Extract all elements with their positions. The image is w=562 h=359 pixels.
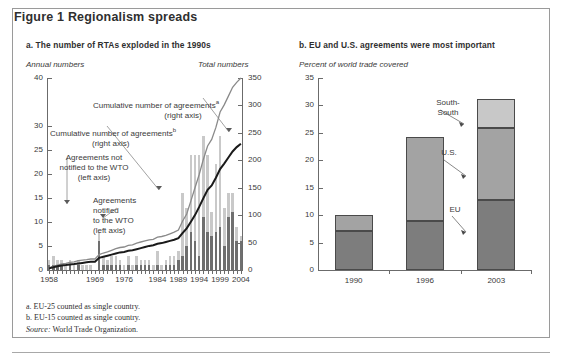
panel-a-x-tick [220, 271, 221, 274]
panel-a-xtick-label: 1969 [79, 275, 111, 284]
panel-a-x-tick [124, 271, 125, 274]
panel-b-x-tick [389, 271, 390, 274]
panel-a-x-tick [237, 271, 238, 274]
annotation-cumulative-a-line1: Cumulative number of agreements [93, 101, 216, 110]
panel-a-x-tick [70, 271, 71, 274]
panel-a-x-tick [132, 271, 133, 274]
label-south-south: South- South [424, 98, 472, 118]
footnote-source-label: Source: [26, 325, 51, 334]
panel-a-x-tick [149, 271, 150, 274]
panel-a-x-tick [195, 271, 196, 274]
label-south-south-line1: South- [436, 98, 460, 107]
annotation-cumulative-a: Cumulative number of agreementsa (right … [86, 97, 226, 121]
panel-a-x-tick [137, 271, 138, 274]
panel-a-x-tick [91, 271, 92, 274]
footnote-a: a. EU-25 counted as single country. [26, 301, 140, 312]
annotation-not-notified: Agreements not notified to the WTO (left… [48, 153, 140, 183]
panel-a-x-tick [87, 271, 88, 274]
footnote-b: b. EU-15 counted as single country. [26, 312, 140, 323]
panel-a-x-tick [141, 271, 142, 274]
panel-b-y-tick-label: 15 [292, 183, 314, 192]
annotation-cumulative-b-line1: Cumulative number of agreements [50, 129, 173, 138]
annotation-not-notified-line1: Agreements not [66, 153, 122, 162]
panel-b-xtick-label: 1990 [334, 276, 374, 285]
panel-b-y-tick-label: 0 [292, 265, 314, 274]
panel-a-x-tick [158, 271, 159, 274]
annotation-cumulative-b-line2: (right axis) [50, 139, 129, 149]
panel-a-x-tick [228, 271, 229, 274]
annotation-cumulative-b: Cumulative number of agreementsb (right … [50, 125, 200, 149]
panel-a-x-tick [99, 271, 100, 274]
panel-b-xtick-label: 2003 [476, 276, 516, 285]
panel-a-x-tick [78, 271, 79, 274]
panel-b-y-tick-label: 25 [292, 128, 314, 137]
panel-a-x-tick [203, 271, 204, 274]
panel-a-x-tick [53, 271, 54, 274]
footnote-source: Source: World Trade Organization. [26, 324, 138, 335]
leader-line [444, 160, 466, 176]
panel-a-x-tick [49, 271, 50, 274]
label-us: U.S. [434, 148, 464, 158]
annotation-not-notified-line3: (left axis) [78, 173, 110, 182]
panel-b-x-tick [531, 271, 532, 274]
panel-a-x-tick [191, 271, 192, 274]
panel-b-y-tick-label: 30 [292, 100, 314, 109]
annotation-cumulative-a-sup: a [216, 99, 219, 105]
panel-b-xtick-label: 1996 [405, 276, 445, 285]
panel-b-title: b. EU and U.S. agreements were most impo… [299, 40, 495, 50]
annotation-notified-line2: notified [93, 206, 119, 215]
panel-b-y-tick [319, 270, 323, 271]
panel-a-x-tick [66, 271, 67, 274]
panel-a-x-tick [57, 271, 58, 274]
panel-a-x-tick [62, 271, 63, 274]
panel-b-unit: Percent of world trade covered [299, 60, 408, 69]
bottom-divider [12, 352, 550, 353]
annotation-notified-line3: to the WTO [93, 216, 134, 225]
panel-a-x-tick [174, 271, 175, 274]
annotation-notified-line4: (left axis) [93, 226, 125, 235]
panel-a-x-tick [187, 271, 188, 274]
panel-a-x-tick [107, 271, 108, 274]
panel-a-x-tick [216, 271, 217, 274]
panel-a-x-tick [183, 271, 184, 274]
panel-a-x-tick [82, 271, 83, 274]
footnote-source-text: World Trade Organization. [51, 325, 139, 334]
panel-a-x-tick [212, 271, 213, 274]
panel-a-x-tick [224, 271, 225, 274]
panel-b-y-tick-label: 10 [292, 210, 314, 219]
panel-a-x-tick [103, 271, 104, 274]
panel-a-x-tick [153, 271, 154, 274]
leader-arrowhead [461, 174, 466, 179]
annotation-cumulative-a-line2: (right axis) [110, 111, 201, 121]
figure-title: Figure 1 Regionalism spreads [14, 10, 197, 24]
figure-page: Figure 1 Regionalism spreads a. The numb… [0, 0, 562, 359]
panel-a-x-tick [145, 271, 146, 274]
panel-a-x-tick [112, 271, 113, 274]
panel-b-y-tick-label: 20 [292, 155, 314, 164]
panel-a-x-tick [233, 271, 234, 274]
panel-b-x-axis [318, 270, 532, 271]
panel-a-x-tick [74, 271, 75, 274]
panel-b-x-tick [461, 271, 462, 274]
panel-a-x-tick [120, 271, 121, 274]
label-eu: EU [443, 205, 467, 215]
panel-a-x-tick [241, 271, 242, 274]
panel-b-y-tick-label: 5 [292, 238, 314, 247]
panel-a-x-tick [166, 271, 167, 274]
panel-a-xtick-label: 1958 [33, 275, 65, 284]
panel-a-x-tick [128, 271, 129, 274]
label-south-south-line2: South [438, 108, 459, 117]
panel-a-x-tick [178, 271, 179, 274]
panel-a-xtick-label: 1976 [108, 275, 140, 284]
panel-a-x-tick [208, 271, 209, 274]
leader-arrowhead [64, 200, 70, 204]
panel-b-y-tick-label: 35 [292, 73, 314, 82]
panel-a-x-tick [199, 271, 200, 274]
annotation-not-notified-line2: notified to the WTO [60, 163, 129, 172]
panel-a-x-tick [162, 271, 163, 274]
annotation-cumulative-b-sup: b [173, 127, 176, 133]
leader-arrowhead [226, 128, 232, 132]
panel-a-xtick-label: 2004 [225, 275, 257, 284]
panel-a-x-tick [95, 271, 96, 274]
annotation-notified-line1: Agreements [93, 196, 136, 205]
